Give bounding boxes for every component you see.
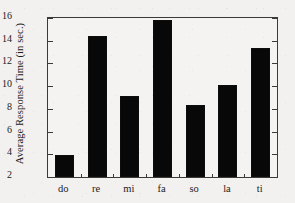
bar-re — [88, 36, 107, 177]
y-axis-tick-label: 12 — [0, 55, 12, 66]
y-axis-tick-label: 2 — [0, 169, 12, 180]
bar-slot — [179, 18, 212, 177]
plot-area — [47, 17, 278, 178]
bar-slot — [244, 18, 277, 177]
bar-series — [48, 18, 277, 177]
y-axis-tick — [48, 177, 53, 178]
y-axis-title: Average Response Time (in sec.) — [14, 9, 25, 179]
bar-mi — [120, 96, 139, 177]
bar-la — [218, 85, 237, 177]
bar-slot — [48, 18, 81, 177]
y-axis-tick-label: 14 — [0, 33, 12, 44]
bar-slot — [113, 18, 146, 177]
y-axis-tick-label: 6 — [0, 124, 12, 135]
x-axis-tick-label-ti: ti — [240, 183, 280, 194]
y-axis-tick-label: 4 — [0, 146, 12, 157]
bar-ti — [251, 48, 270, 177]
bar-slot — [146, 18, 179, 177]
bar-chart-figure: Average Response Time (in sec.) 24681012… — [0, 0, 295, 203]
y-axis-tick-label: 16 — [0, 10, 12, 21]
bar-so — [186, 105, 205, 177]
y-axis-tick-label: 10 — [0, 78, 12, 89]
y-axis-tick-label: 8 — [0, 101, 12, 112]
bar-slot — [212, 18, 245, 177]
bar-fa — [153, 20, 172, 177]
y-axis-tick-right — [272, 177, 277, 178]
bar-slot — [81, 18, 114, 177]
bar-do — [55, 155, 74, 177]
